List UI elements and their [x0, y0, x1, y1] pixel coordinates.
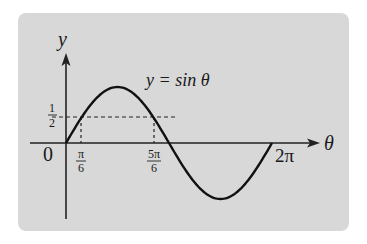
pi6-numerator: π — [78, 147, 84, 161]
half-denominator: 2 — [49, 116, 55, 130]
half-numerator: 1 — [49, 101, 55, 115]
5pi6-denominator: 6 — [151, 161, 157, 175]
5pi6-numerator: 5π — [148, 147, 160, 161]
pi6-denominator: 6 — [78, 161, 84, 175]
twopi-label: 2π — [275, 145, 295, 166]
y-axis-label: y — [56, 28, 67, 51]
curve-label: y = sin θ — [144, 70, 210, 90]
origin-label: 0 — [43, 143, 53, 165]
sine-chart: y θ 0 y = sin θ 1 2 π 6 5π 6 2π — [0, 0, 367, 244]
x-axis-label: θ — [324, 132, 334, 154]
